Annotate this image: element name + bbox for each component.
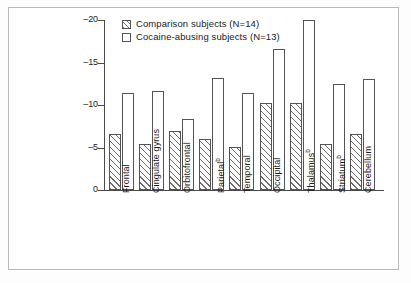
category-label: Parietalb bbox=[213, 158, 226, 193]
legend-label-comparison: Comparison subjects (N=14) bbox=[136, 19, 259, 29]
bar-comparison bbox=[350, 134, 362, 190]
y-tick-mark bbox=[98, 148, 104, 149]
y-tick-label: –20 bbox=[64, 15, 98, 24]
y-tick-label: 0 bbox=[64, 185, 98, 194]
legend-label-cocaine: Cocaine-abusing subjects (N=13) bbox=[136, 32, 280, 42]
category-label: Occipital bbox=[273, 158, 282, 193]
category-label: Orbitofrontal bbox=[183, 142, 192, 193]
hatched-square-icon bbox=[122, 20, 131, 29]
y-axis-line bbox=[104, 20, 105, 191]
figure-container: CHANGE IN METABOLIC RATE (µmol/100 g/min… bbox=[0, 0, 411, 283]
legend: Comparison subjects (N=14) Cocaine-abusi… bbox=[122, 18, 280, 44]
y-tick-mark bbox=[98, 190, 104, 191]
category-label: Frontal bbox=[122, 164, 131, 193]
category-label: Striatumb bbox=[334, 155, 347, 193]
open-square-icon bbox=[122, 33, 131, 42]
y-tick-label: –5 bbox=[64, 143, 98, 152]
bar-comparison bbox=[320, 144, 332, 190]
y-tick-mark bbox=[98, 20, 104, 21]
bar-comparison bbox=[109, 134, 121, 190]
y-tick-label: –10 bbox=[64, 100, 98, 109]
category-label: Cerebellum bbox=[364, 146, 373, 193]
category-label: Temporal bbox=[243, 155, 252, 193]
category-label: Cingulate gyrus bbox=[152, 129, 161, 193]
bar-comparison bbox=[229, 147, 241, 190]
category-label: Thalamusb bbox=[303, 149, 316, 193]
y-tick-mark bbox=[98, 105, 104, 106]
bar-comparison bbox=[290, 103, 302, 190]
y-tick-mark bbox=[98, 63, 104, 64]
y-tick-label: –15 bbox=[64, 58, 98, 67]
bar-comparison bbox=[169, 131, 181, 191]
legend-item-cocaine: Cocaine-abusing subjects (N=13) bbox=[122, 31, 280, 43]
bar-comparison bbox=[139, 144, 151, 190]
legend-item-comparison: Comparison subjects (N=14) bbox=[122, 18, 280, 30]
bar-comparison bbox=[199, 139, 211, 190]
bar-comparison bbox=[260, 103, 272, 190]
